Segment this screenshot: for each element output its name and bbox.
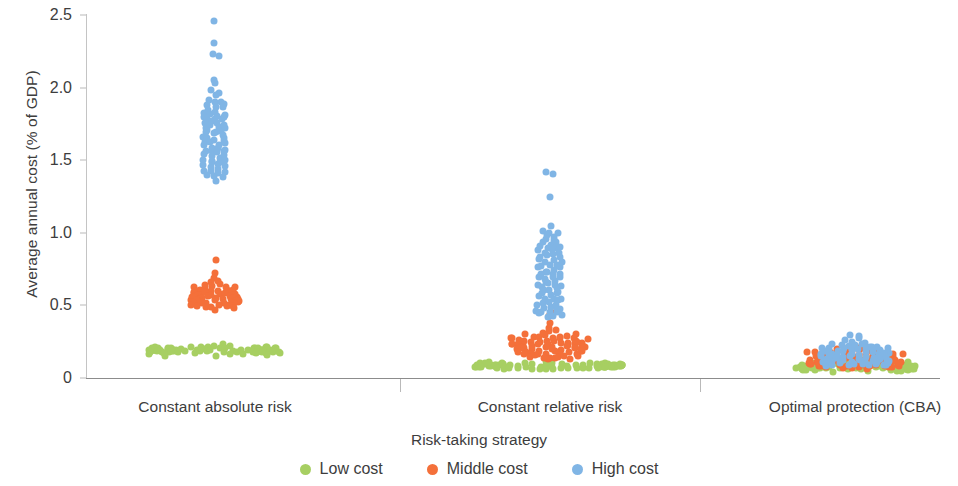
x-category-label-2: Optimal protection (CBA) xyxy=(769,398,941,416)
data-point xyxy=(514,345,521,352)
data-point xyxy=(610,361,617,368)
data-point xyxy=(849,355,856,362)
data-point xyxy=(520,345,527,352)
data-point xyxy=(843,363,850,370)
data-point xyxy=(475,362,482,369)
data-point xyxy=(218,98,225,105)
data-point xyxy=(849,350,856,357)
data-point xyxy=(200,134,207,141)
data-point xyxy=(549,170,556,177)
data-point xyxy=(585,336,592,343)
data-point xyxy=(888,358,895,365)
data-point xyxy=(482,360,489,367)
data-point xyxy=(191,284,198,291)
data-point xyxy=(554,284,561,291)
data-point xyxy=(855,355,862,362)
data-point xyxy=(819,355,826,362)
data-point xyxy=(545,327,552,334)
data-point xyxy=(189,299,196,306)
data-point xyxy=(215,52,222,59)
data-point xyxy=(544,252,551,259)
data-point xyxy=(892,364,899,371)
data-point xyxy=(258,349,265,356)
data-point xyxy=(199,162,206,169)
data-point xyxy=(264,352,271,359)
data-point xyxy=(885,345,892,352)
data-point xyxy=(200,142,207,149)
data-point xyxy=(818,344,825,351)
data-point xyxy=(222,162,229,169)
data-point xyxy=(535,334,542,341)
legend-item-middle-cost[interactable]: Middle cost xyxy=(427,460,528,478)
data-point xyxy=(825,364,832,371)
data-point xyxy=(861,357,868,364)
data-point xyxy=(849,365,856,372)
data-point xyxy=(153,346,160,353)
data-point xyxy=(200,113,207,120)
data-point xyxy=(200,167,207,174)
data-point xyxy=(573,365,580,372)
data-point xyxy=(886,363,893,370)
legend-item-high-cost[interactable]: High cost xyxy=(572,460,659,478)
data-point xyxy=(198,294,205,301)
data-point xyxy=(824,357,831,364)
data-point xyxy=(558,347,565,354)
data-point xyxy=(556,249,563,256)
data-point xyxy=(223,302,230,309)
data-point xyxy=(551,348,558,355)
data-point xyxy=(547,194,554,201)
x-axis-line xyxy=(86,378,940,379)
data-point xyxy=(508,335,515,342)
data-point xyxy=(579,365,586,372)
data-point xyxy=(848,355,855,362)
data-point xyxy=(542,259,549,266)
data-point xyxy=(227,292,234,299)
legend-item-low-cost[interactable]: Low cost xyxy=(300,460,383,478)
data-point xyxy=(474,362,481,369)
data-point xyxy=(532,352,539,359)
data-point xyxy=(828,358,835,365)
data-point xyxy=(552,301,559,308)
data-point xyxy=(856,356,863,363)
data-point xyxy=(831,356,838,363)
data-point xyxy=(221,157,228,164)
data-point xyxy=(819,360,826,367)
data-point xyxy=(804,349,811,356)
data-point xyxy=(822,348,829,355)
data-point xyxy=(608,362,615,369)
data-point xyxy=(887,366,894,373)
data-point xyxy=(192,292,199,299)
data-point xyxy=(825,345,832,352)
data-point xyxy=(547,223,554,230)
data-point xyxy=(226,287,233,294)
data-point xyxy=(816,361,823,368)
x-axis-title: Risk-taking strategy xyxy=(0,431,958,449)
data-point xyxy=(538,308,545,315)
data-point xyxy=(558,259,565,266)
data-point xyxy=(863,345,870,352)
data-point xyxy=(807,360,814,367)
data-point xyxy=(577,348,584,355)
data-point xyxy=(897,359,904,366)
data-point xyxy=(833,355,840,362)
data-point xyxy=(213,92,220,99)
data-point xyxy=(822,363,829,370)
data-point xyxy=(214,113,221,120)
data-point xyxy=(819,356,826,363)
data-point xyxy=(812,353,819,360)
data-point xyxy=(234,299,241,306)
data-point xyxy=(508,335,515,342)
data-point xyxy=(552,239,559,246)
data-point xyxy=(228,290,235,297)
data-point xyxy=(835,353,842,360)
data-point xyxy=(217,128,224,135)
data-point xyxy=(554,288,561,295)
data-point xyxy=(542,343,549,350)
data-point xyxy=(564,339,571,346)
data-point xyxy=(536,292,543,299)
data-point xyxy=(537,363,544,370)
data-point xyxy=(517,345,524,352)
data-point xyxy=(838,358,845,365)
data-point xyxy=(544,279,551,286)
data-point xyxy=(214,169,221,176)
